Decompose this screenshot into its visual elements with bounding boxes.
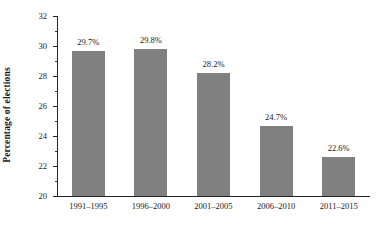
bar[interactable] [72, 51, 105, 197]
bar-column [260, 16, 293, 196]
bar-group: 24.7%2006–2010 [245, 16, 308, 196]
bar-value-label: 28.2% [203, 60, 225, 69]
x-axis-category-label: 2011–2015 [320, 202, 358, 211]
bar-group: 29.8%1996–2000 [120, 16, 183, 196]
y-tick-label: 24 [39, 132, 48, 141]
y-tick-label: 30 [39, 42, 48, 51]
x-axis-category-label: 2006–2010 [257, 202, 295, 211]
x-axis-category-label: 1996–2000 [132, 202, 170, 211]
bar-group: 29.7%1991–1995 [57, 16, 120, 196]
y-tick-label: 26 [39, 102, 48, 111]
bar-column [322, 16, 355, 196]
bar-value-label: 22.6% [328, 144, 350, 153]
bar-value-label: 24.7% [265, 113, 287, 122]
y-tick-label: 32 [39, 12, 48, 21]
plot-area: 20222426283032 29.7%1991–199529.8%1996–2… [57, 16, 370, 196]
bar[interactable] [260, 126, 293, 197]
y-tick-20: 20 [53, 196, 57, 197]
x-axis-line [57, 196, 370, 197]
bar-value-label: 29.8% [140, 36, 162, 45]
y-tick-label: 22 [39, 162, 48, 171]
x-axis-category-label: 2001–2005 [194, 202, 232, 211]
bar-chart: Percentage of elections 20222426283032 2… [0, 0, 376, 230]
bars-layer: 29.7%1991–199529.8%1996–200028.2%2001–20… [57, 16, 370, 196]
bar[interactable] [322, 157, 355, 196]
y-tick-label: 20 [39, 192, 48, 201]
bar[interactable] [134, 49, 167, 196]
bar-group: 28.2%2001–2005 [182, 16, 245, 196]
y-axis-title: Percentage of elections [0, 0, 14, 230]
bar-group: 22.6%2011–2015 [307, 16, 370, 196]
y-tick-label: 28 [39, 72, 48, 81]
bar-column [197, 16, 230, 196]
x-axis-category-label: 1991–1995 [69, 202, 107, 211]
bar[interactable] [197, 73, 230, 196]
bar-value-label: 29.7% [77, 38, 99, 47]
